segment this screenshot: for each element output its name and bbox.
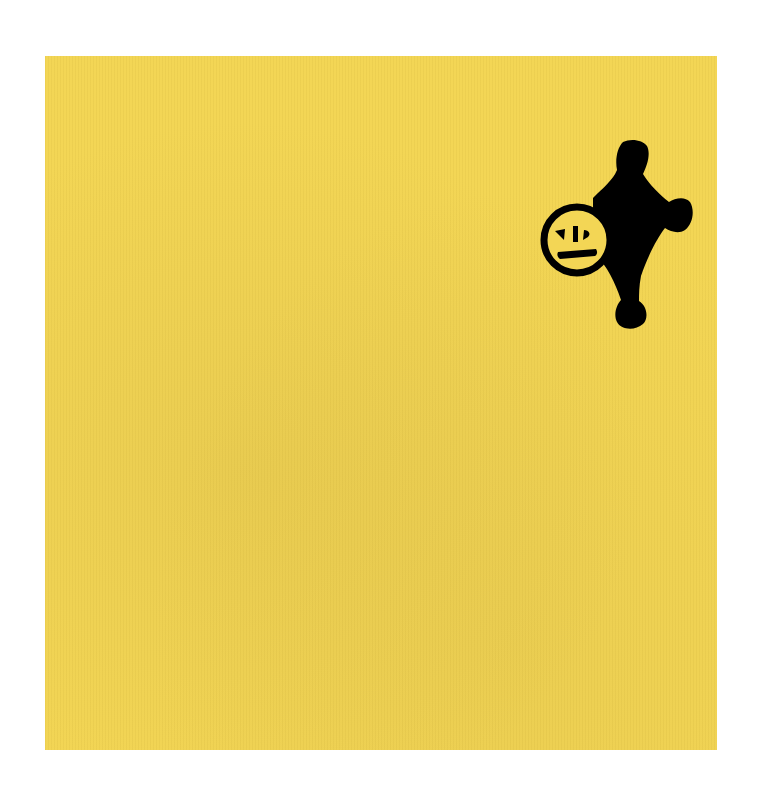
yellow-panel (45, 56, 717, 750)
nose (573, 226, 578, 242)
figure-with-face-icon (535, 136, 695, 331)
